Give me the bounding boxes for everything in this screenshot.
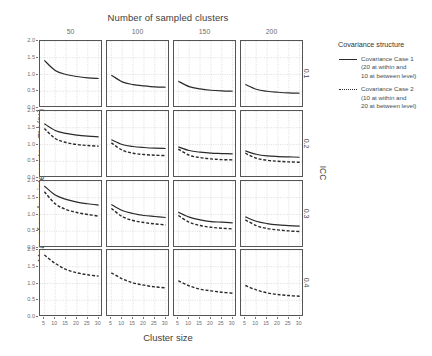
panel-canvas	[241, 181, 303, 247]
y-tick-mark	[36, 110, 38, 111]
y-tick-label: 1.5	[19, 124, 35, 130]
x-tick-label: 5	[38, 320, 48, 326]
panel-canvas	[40, 181, 102, 247]
panel-canvas	[241, 111, 303, 177]
facet-panel-icc-0.3-clusters-50	[39, 180, 102, 247]
x-tick-mark	[177, 317, 178, 319]
facet-panel-icc-0.3-clusters-150	[173, 180, 236, 247]
x-tick-mark	[54, 317, 55, 319]
y-tick-mark	[36, 197, 38, 198]
x-tick-label: 20	[71, 320, 81, 326]
x-tick-mark	[87, 317, 88, 319]
legend-line-glyph	[339, 59, 357, 60]
x-tick-mark	[154, 317, 155, 319]
y-tick-label: 0.5	[19, 157, 35, 163]
x-tick-label: 25	[149, 320, 159, 326]
x-tick-label: 15	[60, 320, 70, 326]
legend-text-line: 10 at between level)	[361, 72, 416, 80]
panel-canvas	[241, 250, 303, 316]
series-line-case-1	[245, 217, 299, 226]
series-line-case-2	[178, 149, 232, 160]
icc-axis-title: ICC	[316, 168, 331, 178]
x-tick-mark	[132, 317, 133, 319]
legend-text-line: Covariance Case 2	[361, 85, 416, 93]
x-tick-mark	[143, 317, 144, 319]
x-tick-label: 25	[216, 320, 226, 326]
panel-canvas	[40, 41, 102, 107]
x-tick-label: 10	[116, 320, 126, 326]
x-tick-label: 10	[49, 320, 59, 326]
legend-text-line: (20 at within and	[361, 63, 416, 71]
panel-canvas	[107, 181, 169, 247]
panel-canvas	[40, 111, 102, 177]
facet-panel-icc-0.3-clusters-200	[240, 180, 303, 247]
y-tick-mark	[36, 214, 38, 215]
y-tick-label: 0.0	[19, 313, 35, 319]
y-tick-mark	[36, 247, 38, 248]
legend-entries: Covariance Case 1(20 at within and10 at …	[338, 55, 430, 110]
legend-entry-2[interactable]: Covariance Case 2(10 at within and20 at …	[338, 85, 430, 110]
y-tick-mark	[36, 283, 38, 284]
legend-text-line: Covariance Case 1	[361, 55, 416, 63]
facet-panel-icc-0.4-clusters-50	[39, 249, 102, 316]
x-tick-mark	[65, 317, 66, 319]
y-tick-label: 2.0	[19, 177, 35, 183]
x-tick-mark	[76, 317, 77, 319]
y-tick-mark	[36, 180, 38, 181]
panel-canvas	[241, 41, 303, 107]
facet-panel-icc-0.3-clusters-100	[106, 180, 169, 247]
y-tick-mark	[36, 177, 38, 178]
y-tick-mark	[36, 57, 38, 58]
x-tick-label: 15	[261, 320, 271, 326]
series-line-case-1	[178, 81, 232, 91]
x-tick-mark	[232, 317, 233, 319]
series-line-case-1	[245, 85, 299, 94]
facet-panel-icc-0.4-clusters-150	[173, 249, 236, 316]
y-tick-mark	[36, 230, 38, 231]
y-tick-label: 2.0	[19, 37, 35, 43]
y-tick-mark	[36, 107, 38, 108]
y-tick-mark	[36, 127, 38, 128]
y-tick-label: 1.0	[19, 141, 35, 147]
legend-entry-1[interactable]: Covariance Case 1(20 at within and10 at …	[338, 55, 430, 80]
x-tick-mark	[98, 317, 99, 319]
x-tick-label: 15	[127, 320, 137, 326]
x-tick-label: 15	[194, 320, 204, 326]
x-tick-mark	[266, 317, 267, 319]
x-tick-label: 30	[93, 320, 103, 326]
legend-line-glyph	[339, 89, 357, 90]
x-tick-mark	[199, 317, 200, 319]
series-line-case-1	[245, 151, 299, 157]
panel-canvas	[174, 111, 236, 177]
x-axis-title: Cluster size	[38, 332, 298, 343]
series-line-case-1	[111, 140, 165, 149]
x-tick-label: 30	[294, 320, 304, 326]
x-tick-mark	[221, 317, 222, 319]
panel-canvas	[107, 111, 169, 177]
x-tick-mark	[165, 317, 166, 319]
x-tick-label: 20	[205, 320, 215, 326]
chart-root: Number of sampled clusters Mean of rando…	[0, 0, 432, 356]
y-tick-label: 1.0	[19, 211, 35, 217]
x-tick-mark	[121, 317, 122, 319]
y-tick-mark	[36, 316, 38, 317]
legend-text-line: (10 at within and	[361, 94, 416, 102]
x-tick-label: 25	[82, 320, 92, 326]
y-tick-label: 0.5	[19, 296, 35, 302]
x-tick-label: 10	[250, 320, 260, 326]
x-tick-label: 30	[227, 320, 237, 326]
panel-canvas	[40, 250, 102, 316]
x-tick-label: 5	[105, 320, 115, 326]
y-tick-mark	[36, 160, 38, 161]
y-tick-label: 2.0	[19, 107, 35, 113]
panel-canvas	[174, 41, 236, 107]
series-line-case-2	[44, 255, 98, 276]
y-tick-label: 0.5	[19, 227, 35, 233]
col-facet-label-150: 150	[173, 26, 236, 37]
legend: Covariance structure Covariance Case 1(2…	[338, 40, 430, 115]
y-tick-label: 1.5	[19, 54, 35, 60]
legend-key-solid-line-icon	[338, 55, 358, 63]
legend-key-dotted-line-icon	[338, 85, 358, 93]
y-tick-mark	[36, 299, 38, 300]
facet-panel-icc-0.2-clusters-200	[240, 110, 303, 177]
